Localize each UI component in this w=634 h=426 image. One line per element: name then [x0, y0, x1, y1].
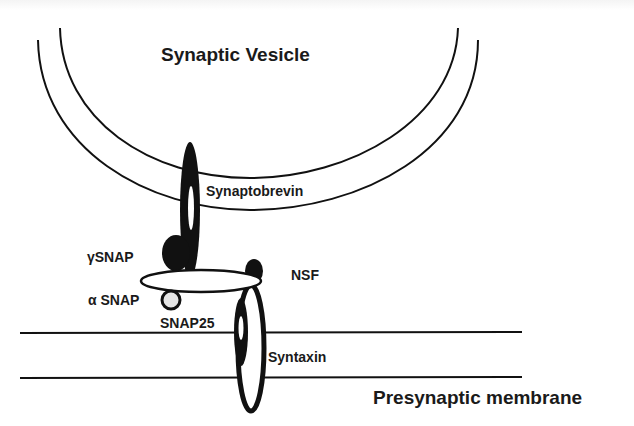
nsf-protein — [141, 270, 261, 292]
label-syntaxin: Syntaxin — [268, 349, 326, 365]
label-snap25: SNAP25 — [160, 315, 214, 331]
snap25-protein — [234, 298, 248, 366]
alpha-snap-protein — [162, 291, 180, 309]
label-alpha-snap: α SNAP — [88, 292, 139, 308]
label-synaptic-vesicle: Synaptic Vesicle — [161, 44, 310, 66]
label-synaptobrevin: Synaptobrevin — [206, 183, 303, 199]
label-gamma-snap: γSNAP — [87, 249, 134, 265]
gamma-snap-protein — [162, 235, 190, 271]
label-presynaptic-membrane: Presynaptic membrane — [373, 387, 582, 409]
label-nsf: NSF — [291, 267, 319, 283]
membrane-upper-line — [20, 332, 522, 333]
membrane-lower-line — [20, 377, 522, 378]
